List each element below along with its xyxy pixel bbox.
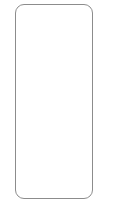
- rounded-rectangle-outline: [15, 4, 93, 199]
- frame-interior: [16, 5, 92, 198]
- figure-canvas: [0, 0, 114, 217]
- frame-interior-label: [16, 5, 92, 198]
